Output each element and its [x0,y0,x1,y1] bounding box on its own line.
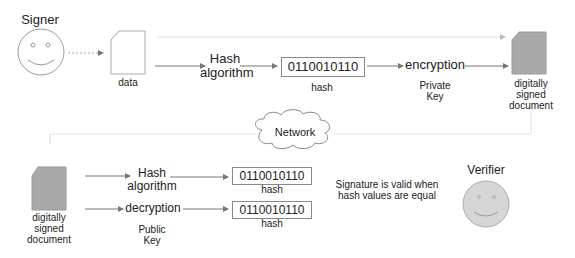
verifier-hash-caption-1: hash [250,184,294,195]
signer-title: Signer [10,13,70,27]
signer-hash-caption: hash [300,82,344,93]
hash-label-line: Hash [200,52,250,66]
signed-doc-line: signed [22,223,76,234]
private-key-line: Key [403,91,467,102]
verifier-face-icon [463,181,509,227]
validity-line: Signature is valid when [332,179,442,190]
private-key-line: Private [403,80,467,91]
validity-note: Signature is valid when hash values are … [332,179,442,201]
verifier-title: Verifier [456,164,516,177]
signer-face-icon [18,29,64,75]
signer-hash-box: 0110010110 [281,57,365,77]
data-label: data [108,77,148,88]
public-key-line: Key [130,235,174,246]
verifier-signed-document-icon [32,167,66,210]
signed-doc-line: document [22,234,76,245]
verifier-hash-box-2: 0110010110 [232,201,312,219]
validity-line: hash values are equal [332,190,442,201]
signed-document-label: digitally signed document [506,78,556,111]
signed-document-icon [512,32,546,74]
signed-doc-line: digitally [506,78,556,89]
signed-doc-line: signed [506,89,556,100]
network-label: Network [270,126,320,138]
network-path [334,110,531,134]
verifier-hash-caption-2: hash [250,218,294,229]
data-document-icon [111,31,145,74]
signed-doc-line: digitally [22,212,76,223]
verifier-signed-document-label: digitally signed document [22,212,76,245]
verifier-hash-box-1: 0110010110 [232,167,312,185]
public-key-line: Public [130,224,174,235]
decryption-label: decryption [120,202,186,215]
hash-label-line: algorithm [200,66,250,80]
hash-label-line: algorithm [125,180,179,193]
hash-algorithm-label: Hash algorithm [200,52,250,81]
encryption-label: encryption [403,58,467,72]
verifier-hash-algorithm-label: Hash algorithm [125,167,179,193]
private-key-label: Private Key [403,80,467,102]
signed-doc-line: document [506,100,556,111]
public-key-label: Public Key [130,224,174,246]
